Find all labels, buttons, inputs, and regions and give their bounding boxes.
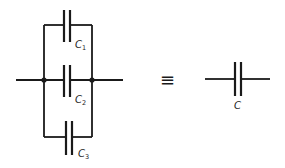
label-c1: C1 [75,39,86,52]
equivalence-symbol: ≡ [160,69,175,90]
junction-node-left [41,77,46,82]
label-c3: C3 [78,148,89,161]
capacitor-c1 [44,10,92,42]
equivalent-capacitor [205,62,270,96]
parallel-network [16,10,123,155]
label-c2: C2 [75,94,86,107]
label-c: C [234,100,241,111]
circuit-diagram: C1 C2 C3 ≡ C [0,0,285,168]
capacitor-c2 [16,65,123,97]
junction-node-right [89,77,94,82]
